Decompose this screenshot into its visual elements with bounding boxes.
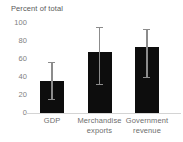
y-tick-label: 60 (3, 55, 27, 63)
error-bar (51, 62, 53, 101)
bar-group (135, 23, 159, 113)
error-bar (99, 27, 101, 86)
y-tick-label: 0 (3, 109, 27, 117)
y-tick-label: 100 (3, 19, 27, 27)
error-bar-cap-lower (96, 84, 103, 85)
y-tick-label: 40 (3, 73, 27, 81)
y-tick-label: 20 (3, 91, 27, 99)
x-tick-label-line: Government (120, 116, 174, 126)
y-axis: 020406080100 (0, 0, 27, 142)
x-tick-label: GDP (25, 116, 79, 126)
x-tick-label-line: GDP (25, 116, 79, 126)
error-bar (146, 29, 148, 78)
x-tick-label-line: revenue (120, 126, 174, 136)
error-bar-cap-upper (48, 62, 55, 63)
bar-group (88, 23, 112, 113)
error-bar-cap-lower (143, 77, 150, 78)
x-tick-label-line: exports (73, 126, 127, 136)
bar-chart: Percent of total 020406080100 GDPMerchan… (0, 0, 183, 142)
x-tick-label-line: Merchandise (73, 116, 127, 126)
x-tick-label: Merchandiseexports (73, 116, 127, 135)
y-tick-label: 80 (3, 37, 27, 45)
error-bar-cap-upper (96, 27, 103, 28)
x-tick-label: Governmentrevenue (120, 116, 174, 135)
error-bar-cap-lower (48, 99, 55, 100)
error-bar-cap-upper (143, 29, 150, 30)
bar-group (40, 23, 64, 113)
